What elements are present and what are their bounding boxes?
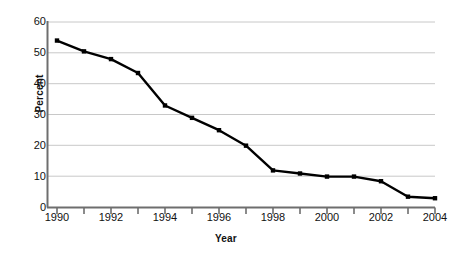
data-point <box>244 143 248 147</box>
y-tick-label: 50 <box>20 47 46 58</box>
x-tick-label: 1998 <box>251 211 295 223</box>
data-point <box>271 168 275 172</box>
data-point <box>55 38 59 42</box>
data-point <box>433 196 437 200</box>
y-axis-title: Percent <box>34 59 45 129</box>
x-tick-label: 2000 <box>305 211 349 223</box>
data-point <box>109 57 113 61</box>
data-point <box>217 128 221 132</box>
data-point <box>325 174 329 178</box>
x-tick-label: 1994 <box>143 211 187 223</box>
x-tick-label: 1992 <box>89 211 133 223</box>
y-tick-label: 60 <box>20 16 46 27</box>
data-point <box>163 103 167 107</box>
x-tick-label: 1990 <box>35 211 79 223</box>
data-point <box>406 194 410 198</box>
data-point <box>379 179 383 183</box>
data-point <box>136 71 140 75</box>
data-point <box>298 171 302 175</box>
x-tick-label: 2004 <box>413 211 452 223</box>
data-point <box>190 116 194 120</box>
x-tick-label: 2002 <box>359 211 403 223</box>
data-point <box>82 49 86 53</box>
data-point <box>352 174 356 178</box>
x-axis-title: Year <box>181 233 271 244</box>
y-tick-label: 10 <box>20 171 46 182</box>
x-tick-label: 1996 <box>197 211 241 223</box>
y-tick-label: 20 <box>20 140 46 151</box>
data-series-line <box>57 41 435 199</box>
gridlines <box>47 22 435 176</box>
